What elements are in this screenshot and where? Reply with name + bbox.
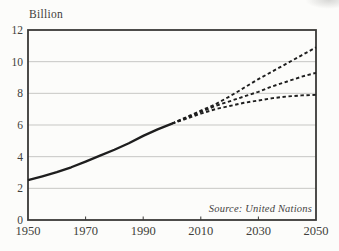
x-tick-label-2050: 2050 xyxy=(304,224,329,238)
y-tick-label-12: 12 xyxy=(12,24,24,36)
y-tick-label-8: 8 xyxy=(17,87,23,99)
series-medium-projection xyxy=(172,73,316,124)
x-tick-label-2010: 2010 xyxy=(188,224,213,238)
y-tick-label-6: 6 xyxy=(17,119,23,131)
series-high-projection xyxy=(172,47,316,123)
series-historical xyxy=(28,124,172,181)
y-tick-label-2: 2 xyxy=(17,182,23,194)
y-tick-label-10: 10 xyxy=(12,56,24,68)
series-low-projection xyxy=(172,95,316,124)
x-tick-label-1990: 1990 xyxy=(131,224,156,238)
y-axis-unit-label: Billion xyxy=(29,8,63,20)
y-tick-label-4: 4 xyxy=(17,151,23,163)
population-chart-figure: Billion 02468101219501970199020102030205… xyxy=(0,0,339,251)
x-tick-label-1950: 1950 xyxy=(16,224,41,238)
x-tick-label-1970: 1970 xyxy=(73,224,98,238)
source-attribution: Source: United Nations xyxy=(209,203,312,214)
x-tick-label-2030: 2030 xyxy=(246,224,271,238)
